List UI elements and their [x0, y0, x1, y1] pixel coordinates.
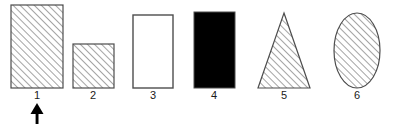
- shape-item-1[interactable]: 1: [11, 5, 63, 101]
- shape-6-label: 6: [354, 89, 360, 101]
- shape-item-3[interactable]: 3: [133, 15, 173, 101]
- shape-6-ellipse[interactable]: [334, 13, 380, 88]
- shape-3-label: 3: [150, 89, 156, 101]
- arrow-shaft: [36, 113, 39, 124]
- shape-4-label: 4: [211, 89, 217, 101]
- shape-4-rectangle[interactable]: [194, 12, 235, 88]
- shape-3-rectangle[interactable]: [133, 15, 173, 88]
- shape-comparison-figure: 1 2 3 4 5 6: [0, 0, 393, 126]
- figure-canvas: 1 2 3 4 5 6: [0, 0, 393, 126]
- shape-1-label: 1: [34, 89, 40, 101]
- shape-item-4[interactable]: 4: [194, 12, 235, 101]
- shape-2-label: 2: [90, 89, 96, 101]
- shape-1-rectangle[interactable]: [11, 5, 63, 88]
- shape-5-label: 5: [281, 89, 287, 101]
- shape-2-square[interactable]: [73, 44, 114, 88]
